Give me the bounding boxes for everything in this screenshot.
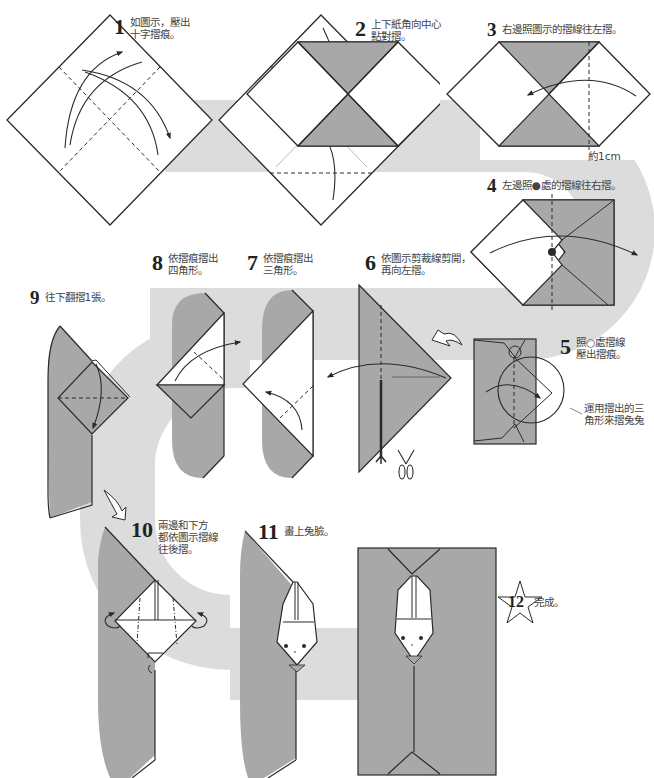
- step-7-label: 7 依摺痕摺出三角形。: [247, 252, 313, 276]
- step-6-label: 6 依圖示剪裁線剪開，再向左摺。: [365, 252, 471, 276]
- step1-figure: [7, 15, 212, 225]
- step3-diagram: [440, 30, 654, 160]
- step12-figure: [358, 548, 496, 775]
- measure-note: 約1cm: [588, 150, 621, 162]
- step11-figure: [240, 531, 317, 778]
- scissors-icon: [398, 450, 414, 479]
- step5-hint: 運用摺出的三角形來摺兔兔: [584, 402, 644, 426]
- step-9-label: 9 往下翻摺1張。: [30, 288, 111, 307]
- origami-diagram: [0, 0, 654, 778]
- step-1-label: 1 如圖示，壓出十字摺痕。: [114, 16, 190, 40]
- step-4-label: 4 左邊照●處的摺線往右摺。: [487, 176, 621, 195]
- step-5-label: 5 照○處摺線壓出摺痕。: [560, 336, 626, 360]
- step-10-label: 10 兩邊和下方都依圖示摺線往後摺。: [131, 519, 218, 555]
- step-2-label: 2 上下紙角向中心點對摺。: [355, 18, 441, 42]
- step-3-label: 3 右邊照圖示的摺線往左摺。: [487, 20, 622, 39]
- step-11-label: 11 畫上兔臉。: [258, 521, 334, 543]
- step-12-label: 12 完成。: [508, 594, 564, 610]
- step-8-label: 8 依摺痕摺出四角形。: [152, 252, 218, 276]
